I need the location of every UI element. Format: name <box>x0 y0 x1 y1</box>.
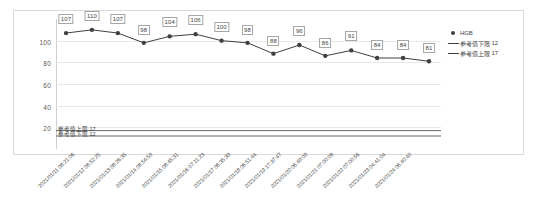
data-point-label: 104 <box>162 17 177 27</box>
data-point-label: 98 <box>138 25 150 35</box>
data-point-label: 110 <box>84 11 99 21</box>
data-point-label: 107 <box>110 14 125 24</box>
data-point[interactable] <box>271 51 275 55</box>
data-point[interactable] <box>168 34 172 38</box>
data-point[interactable] <box>401 56 405 60</box>
data-point[interactable] <box>116 31 120 35</box>
plot-area: 100 80 60 40 20 107110107981041061009888… <box>56 19 441 149</box>
dot-marker-icon <box>446 31 460 35</box>
data-point[interactable] <box>219 38 223 42</box>
line-marker-icon <box>446 43 460 44</box>
data-point-label: 100 <box>214 22 229 32</box>
data-point[interactable] <box>64 31 68 35</box>
data-point[interactable] <box>427 59 431 63</box>
legend-item-reference-lower[interactable]: 参考值下限 12 <box>446 38 513 48</box>
y-tick-label-40: 40 <box>43 103 51 110</box>
reference-label-value: 12 <box>90 131 96 137</box>
x-axis-tick-label: 2021/01/11 08:21:06 <box>0 152 76 209</box>
y-tick-label-80: 80 <box>43 60 51 67</box>
y-tick-label-20: 20 <box>43 125 51 132</box>
y-tick-label-100: 100 <box>40 38 51 45</box>
data-point-label: 81 <box>423 43 435 53</box>
reference-label-text: 参考值下限 <box>58 131 88 137</box>
legend-item-reference-upper[interactable]: 参考值上限 17 <box>446 48 513 58</box>
series-hgb-line <box>56 19 441 149</box>
legend-value-reference-lower: 12 <box>492 40 499 46</box>
data-point[interactable] <box>193 32 197 36</box>
data-point-label: 91 <box>345 31 357 41</box>
legend-label-reference-lower: 参考值下限 <box>460 39 490 48</box>
legend-value-reference-upper: 17 <box>492 50 499 56</box>
line-marker-icon <box>446 53 460 54</box>
data-point-label: 84 <box>371 40 383 50</box>
legend-label-reference-upper: 参考值上限 <box>460 49 490 58</box>
data-point-label: 88 <box>267 36 279 46</box>
data-point-label: 107 <box>58 14 73 24</box>
data-point-label: 86 <box>319 38 331 48</box>
x-axis-tick-label: 2021/01/12 08:52:25 <box>0 152 102 209</box>
data-point-label: 106 <box>188 15 203 25</box>
y-tick-label-60: 60 <box>43 82 51 89</box>
reference-line-label: 参考值下限12 <box>58 132 95 138</box>
data-point-label: 96 <box>293 26 305 36</box>
data-point[interactable] <box>245 41 249 45</box>
chart-legend: HGB 参考值下限 12 参考值上限 17 <box>443 25 515 61</box>
legend-label-hgb: HGB <box>460 30 473 36</box>
data-point[interactable] <box>297 43 301 47</box>
legend-item-hgb[interactable]: HGB <box>446 28 513 38</box>
data-point-label: 84 <box>397 40 409 50</box>
data-point-label: 98 <box>242 25 254 35</box>
data-point[interactable] <box>142 41 146 45</box>
data-point[interactable] <box>323 54 327 58</box>
chart-frame: 100 80 60 40 20 107110107981041061009888… <box>13 10 524 155</box>
data-point[interactable] <box>375 56 379 60</box>
data-point[interactable] <box>349 48 353 52</box>
data-point[interactable] <box>90 28 94 32</box>
